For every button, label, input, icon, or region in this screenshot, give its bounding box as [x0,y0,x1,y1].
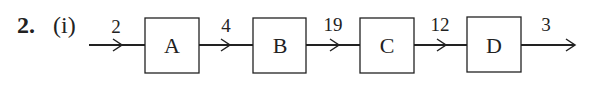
arrow-label-b-c: 19 [324,14,343,35]
block-a-label: A [164,33,180,58]
arrow-label-in: 2 [111,16,121,37]
arrow-label-c-d: 12 [431,14,450,35]
block-b-label: B [273,33,288,58]
flow-diagram: A B C D 2 4 19 12 3 [0,0,593,94]
block-d-label: D [486,33,502,58]
arrow-label-out: 3 [541,14,551,35]
arrow-label-a-b: 4 [221,15,231,36]
block-c-label: C [380,33,395,58]
